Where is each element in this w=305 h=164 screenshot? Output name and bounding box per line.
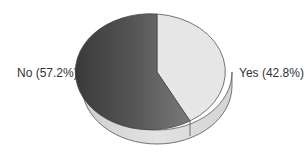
pie-chart: [0, 0, 305, 164]
slice-label-no: No (57.2%): [17, 66, 78, 80]
slice-label-yes: Yes (42.8%): [239, 66, 304, 80]
